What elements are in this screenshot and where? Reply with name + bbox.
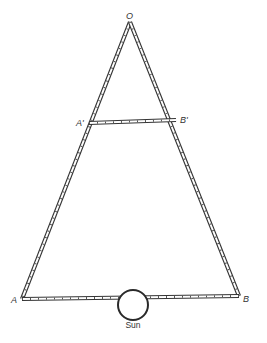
rod-a-prime-b-prime [89, 120, 176, 123]
label-o: O [126, 11, 133, 21]
label-a: A [10, 295, 17, 305]
sun [118, 290, 148, 320]
label-b: B [243, 294, 249, 304]
label-b-prime: B' [180, 115, 188, 125]
label-sun: Sun [125, 320, 140, 330]
sun-circle [118, 290, 148, 320]
label-a-prime: A' [75, 118, 84, 128]
rod-o-a [22, 22, 130, 299]
rod-o-b [130, 22, 239, 296]
triangle-diagram: O A' B' A B Sun [0, 0, 267, 343]
